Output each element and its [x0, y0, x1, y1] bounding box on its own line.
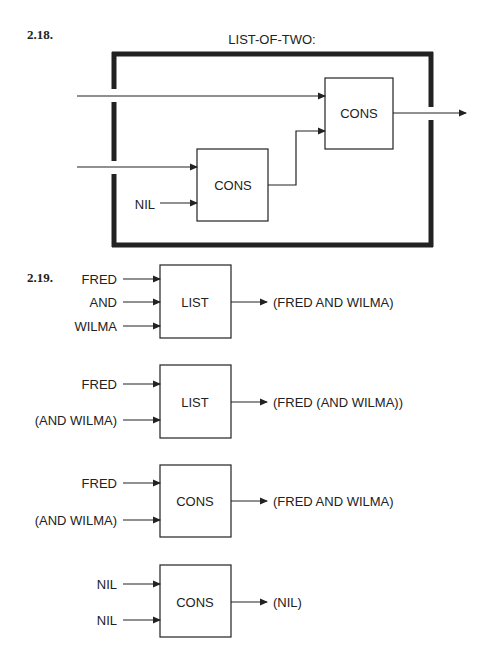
nil-label: NIL	[135, 197, 155, 212]
diagram-cons-nil: CONS NIL NIL (NIL)	[97, 565, 302, 637]
output-label: (FRED AND WILMA)	[273, 295, 394, 310]
output-label: (NIL)	[273, 595, 302, 610]
diagram-canvas: 2.18. LIST-OF-TWO: CONS CONS NIL 2.1	[0, 0, 490, 672]
outer-cons-label: CONS	[340, 106, 378, 121]
inner-to-outer-arrow	[268, 131, 325, 185]
input-label: (AND WILMA)	[35, 413, 117, 428]
inner-cons-label: CONS	[214, 178, 252, 193]
diagram-list-three: LIST FRED AND WILMA (FRED AND WILMA)	[74, 265, 393, 338]
exercise-2-18: 2.18. LIST-OF-TWO: CONS CONS NIL	[27, 27, 466, 247]
diagram-list-two: LIST FRED (AND WILMA) (FRED (AND WILMA))	[35, 365, 403, 438]
input-label: FRED	[82, 272, 117, 287]
diagram-cons-fred: CONS FRED (AND WILMA) (FRED AND WILMA)	[35, 465, 394, 537]
output-label: (FRED AND WILMA)	[273, 494, 394, 509]
input-label: (AND WILMA)	[35, 513, 117, 528]
function-label: LIST	[181, 395, 209, 410]
input-label: FRED	[82, 476, 117, 491]
input-label: FRED	[82, 377, 117, 392]
exercise-number: 2.18.	[27, 27, 53, 42]
input-label: WILMA	[74, 319, 117, 334]
function-title: LIST-OF-TWO:	[228, 32, 315, 47]
exercise-2-19: 2.19. LIST FRED AND WILMA (FRED AND WILM…	[27, 265, 403, 637]
exercise-number: 2.19.	[27, 270, 53, 285]
input-label: NIL	[97, 577, 117, 592]
function-label: LIST	[181, 295, 209, 310]
output-label: (FRED (AND WILMA))	[273, 395, 403, 410]
function-label: CONS	[176, 494, 214, 509]
input-label: NIL	[97, 613, 117, 628]
input-label: AND	[90, 295, 117, 310]
function-label: CONS	[176, 595, 214, 610]
